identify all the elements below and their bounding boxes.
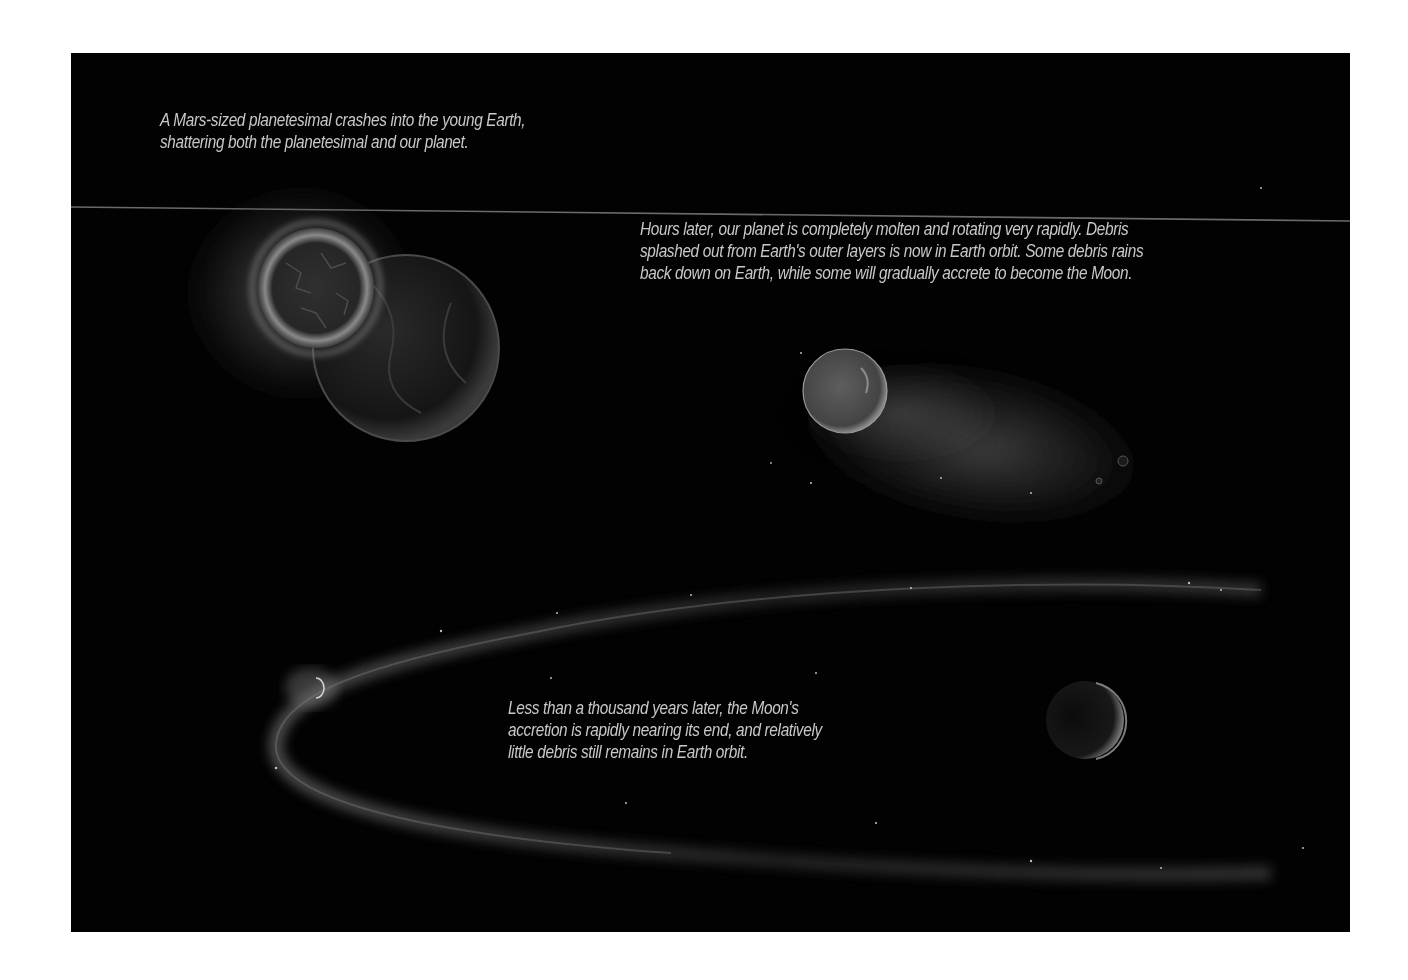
- caption-line: Less than a thousand years later, the Mo…: [508, 697, 822, 719]
- caption-line: back down on Earth, while some will grad…: [640, 262, 1143, 284]
- collision-scene: [171, 173, 499, 441]
- caption-hours-later: Hours later, our planet is completely mo…: [640, 218, 1143, 284]
- molten-earth-scene: [749, 318, 1194, 568]
- caption-line: A Mars-sized planetesimal crashes into t…: [160, 109, 525, 131]
- caption-line: Hours later, our planet is completely mo…: [640, 218, 1143, 240]
- caption-line: little debris still remains in Earth orb…: [508, 741, 822, 763]
- caption-impact: A Mars-sized planetesimal crashes into t…: [160, 109, 525, 153]
- caption-thousand-years: Less than a thousand years later, the Mo…: [508, 697, 822, 763]
- space-illustration: [71, 53, 1350, 932]
- caption-line: splashed out from Earth's outer layers i…: [640, 240, 1143, 262]
- illustration-panel: A Mars-sized planetesimal crashes into t…: [71, 53, 1350, 932]
- caption-line: shattering both the planetesimal and our…: [160, 131, 525, 153]
- caption-line: accretion is rapidly nearing its end, an…: [508, 719, 822, 741]
